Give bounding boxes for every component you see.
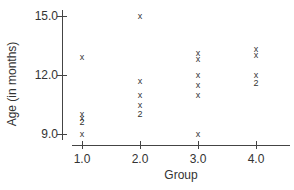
y-tick-label: 12.0 [35, 68, 58, 82]
x-axis-title: Group [164, 168, 197, 182]
data-point-marker: x [135, 100, 145, 109]
y-axis-title: Age (in months) [5, 42, 19, 127]
data-point-marker: x [77, 53, 87, 62]
data-point-marker: x [193, 90, 203, 99]
data-point-marker: x [251, 51, 261, 60]
data-point-marker: x [193, 130, 203, 139]
y-tick-label: 9.0 [41, 127, 58, 141]
y-tick-12 [57, 75, 67, 76]
data-point-marker: 2 [135, 110, 145, 119]
data-point-marker: x [135, 12, 145, 21]
x-tick-1 [82, 141, 83, 149]
data-point-marker: x [77, 130, 87, 139]
x-tick-label: 1.0 [74, 152, 91, 166]
data-point-marker: x [135, 76, 145, 85]
x-tick-4 [256, 141, 257, 149]
x-axis-line [72, 145, 290, 146]
x-tick-label: 2.0 [132, 152, 149, 166]
data-point-marker: x [193, 55, 203, 64]
x-tick-label: 4.0 [248, 152, 265, 166]
x-tick-2 [140, 141, 141, 149]
scatter-chart: 15.0 12.0 9.0 1.0 2.0 3.0 4.0 Group Age … [0, 0, 294, 190]
x-tick-label: 3.0 [190, 152, 207, 166]
y-tick-9 [57, 134, 67, 135]
y-tick-label: 15.0 [35, 9, 58, 23]
data-point-marker: 2 [251, 78, 261, 87]
data-point-marker: x [193, 71, 203, 80]
x-tick-3 [198, 141, 199, 149]
data-point-marker: 2 [77, 118, 87, 127]
data-point-marker: x [193, 80, 203, 89]
y-tick-15 [57, 16, 67, 17]
data-point-marker: x [135, 90, 145, 99]
